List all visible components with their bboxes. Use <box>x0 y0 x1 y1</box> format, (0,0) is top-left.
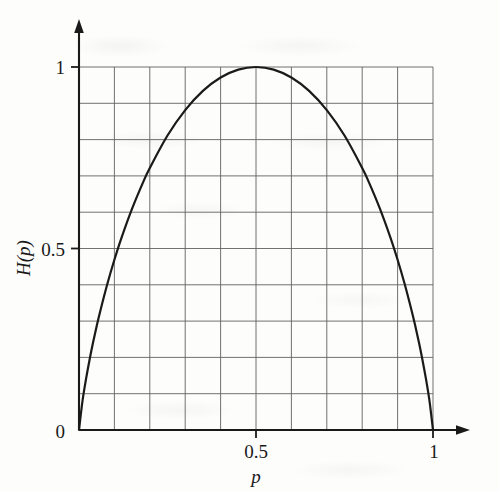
axis-ticks <box>71 67 433 438</box>
x-tick-label-1: 1 <box>429 441 439 462</box>
y-tick-label-0-5: 0.5 <box>41 239 65 260</box>
y-tick-label-0: 0 <box>56 421 66 442</box>
x-tick-label-0-5: 0.5 <box>244 441 268 462</box>
x-axis-arrow-icon <box>456 425 470 435</box>
y-axis-arrow-icon <box>74 19 84 33</box>
plot-grid <box>79 67 433 430</box>
entropy-chart: 1 0.5 0 0.5 1 p H(p) <box>0 0 499 492</box>
y-axis-title: H(p) <box>13 240 35 277</box>
figure-page: 1 0.5 0 0.5 1 p H(p) <box>0 0 499 492</box>
x-axis-title: p <box>249 466 261 487</box>
y-tick-label-1: 1 <box>56 57 66 78</box>
plot-axes <box>79 26 462 430</box>
